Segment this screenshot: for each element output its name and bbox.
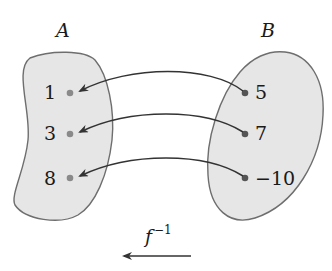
diagram-canvas: A B 1 3 8 5 7 −10 f−1 (0, 0, 332, 271)
set-b-element-1: 5 (255, 81, 267, 103)
set-a-element-3: 8 (44, 167, 56, 189)
set-a-dot-2 (67, 131, 74, 138)
set-a-element-2: 3 (44, 122, 56, 144)
set-a-label: A (54, 19, 70, 41)
function-diagram: A B 1 3 8 5 7 −10 f−1 (0, 0, 332, 271)
set-a-element-1: 1 (44, 81, 56, 103)
set-a-dot-1 (67, 90, 74, 97)
inverse-function-label: f−1 (143, 223, 172, 247)
set-b-label: B (260, 19, 275, 41)
set-b-element-3: −10 (255, 167, 295, 189)
set-b-element-2: 7 (255, 122, 267, 144)
set-a-dot-3 (67, 175, 74, 182)
set-a-region (14, 52, 113, 220)
